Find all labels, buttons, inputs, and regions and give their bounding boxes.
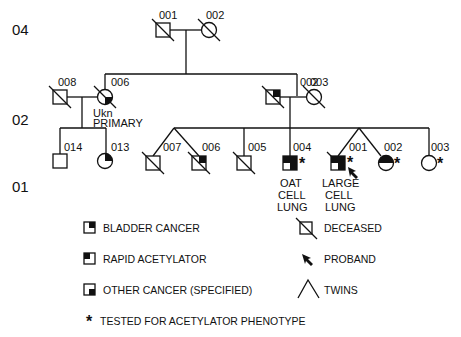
legend-label: DECEASED: [324, 222, 382, 234]
legend-label: RAPID ACETYLATOR: [103, 253, 207, 265]
id-label: 002: [384, 141, 402, 153]
legend-item-proband: PROBAND: [302, 253, 376, 266]
legend-item-other-cancer: OTHER CANCER (SPECIFIED): [84, 284, 252, 296]
rapid-acetylator-icon-fill: [84, 253, 90, 259]
legend-item-tested: * TESTED FOR ACETYLATOR PHENOTYPE: [86, 313, 306, 330]
legend-label: PROBAND: [324, 253, 376, 265]
individual-g01-007: 007: [142, 141, 181, 174]
female-symbol: [422, 156, 437, 171]
bladder-cancer-icon-fill: [89, 222, 95, 228]
id-label: 005: [248, 141, 266, 153]
individual-g04-002: 002: [198, 9, 224, 41]
id-label: 014: [64, 141, 82, 153]
generation-label-02: 02: [12, 111, 29, 128]
note-line: CELL: [325, 189, 353, 201]
id-label: 013: [111, 141, 129, 153]
individual-g01-006: 006: [188, 141, 220, 174]
deceased-icon-slash: [296, 218, 317, 239]
id-label: 006: [202, 141, 220, 153]
pedigree-chart: 04 02 01 001 002 008 006 Ukn PRIMARY 002: [0, 0, 461, 337]
note-line: LARGE: [322, 177, 359, 189]
asterisk-icon: *: [86, 313, 93, 330]
individual-g01-005: 005: [233, 141, 266, 174]
generation-label-04: 04: [12, 21, 29, 38]
tested-marker: *: [394, 155, 401, 172]
other-cancer-quadrant: [338, 163, 345, 170]
note-line: LUNG: [277, 201, 308, 213]
legend-label: TESTED FOR ACETYLATOR PHENOTYPE: [100, 315, 306, 327]
individual-g01-003: 003 *: [422, 141, 450, 172]
note-line: LUNG: [325, 201, 356, 213]
legend: BLADDER CANCER RAPID ACETYLATOR OTHER CA…: [84, 218, 382, 330]
legend-item-bladder-cancer: BLADDER CANCER: [84, 222, 200, 234]
legend-label: OTHER CANCER (SPECIFIED): [103, 284, 252, 296]
generation-label-01: 01: [12, 178, 29, 195]
id-label: 003: [431, 141, 449, 153]
id-label: 004: [293, 141, 311, 153]
bladder-cancer-quadrant: [105, 154, 113, 162]
legend-item-deceased: DECEASED: [296, 218, 382, 239]
other-cancer-quadrant: [290, 163, 297, 170]
individual-g02-008: 008: [49, 76, 76, 108]
individual-g01-004: 004 * OAT CELL LUNG: [277, 141, 311, 213]
proband-arrow-icon: [302, 254, 313, 266]
individual-g04-001: 001: [152, 9, 177, 41]
individual-g01-014: 014: [53, 141, 82, 168]
legend-item-twins: TWINS: [298, 280, 358, 298]
bladder-rapid-quadrants: [283, 156, 297, 163]
id-label: 002: [206, 9, 224, 21]
individual-g01-002: 002 *: [379, 141, 403, 172]
note-line: CELL: [278, 189, 306, 201]
id-label: 007: [163, 141, 181, 153]
legend-label: TWINS: [324, 284, 358, 296]
bladder-cancer-quadrant: [273, 90, 280, 97]
deceased-slash: [327, 152, 333, 158]
bladder-cancer-quadrant: [199, 156, 206, 163]
individual-g01-013: 013: [98, 141, 130, 169]
id-label: 006: [111, 76, 129, 88]
legend-item-rapid-acetylator: RAPID ACETYLATOR: [84, 253, 207, 265]
id-label: 001: [159, 9, 177, 21]
bladder-rapid-quadrants: [331, 156, 345, 163]
note-line: PRIMARY: [93, 117, 144, 129]
tested-marker: *: [299, 155, 306, 172]
legend-label: BLADDER CANCER: [103, 222, 200, 234]
id-label: 001: [349, 141, 367, 153]
upper-half-fill: [379, 156, 394, 164]
note-line: OAT: [280, 177, 302, 189]
individual-g02-006: 006 Ukn PRIMARY: [93, 76, 144, 129]
twins-icon: [298, 280, 319, 298]
individual-g01-001: 001 * LARGE CELL LUNG: [322, 141, 367, 213]
male-symbol: [53, 154, 67, 168]
id-label: 008: [58, 76, 76, 88]
tested-marker: *: [437, 155, 444, 172]
id-label: 003: [310, 76, 328, 88]
other-cancer-icon-fill: [89, 289, 95, 295]
